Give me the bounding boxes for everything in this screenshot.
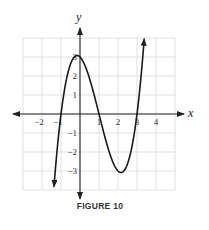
x-axis-label: x xyxy=(187,106,194,120)
x-tick-label: −1 xyxy=(53,117,63,127)
y-tick-label: 1 xyxy=(73,90,78,100)
y-tick-label: 2 xyxy=(73,71,78,81)
cubic-function-graph: −2−11234321−1−2−3 x y xyxy=(0,0,209,200)
y-tick-label: −3 xyxy=(67,166,77,176)
y-tick-label: −2 xyxy=(67,147,77,157)
x-tick-label: 4 xyxy=(154,117,159,127)
figure-10: −2−11234321−1−2−3 x y FIGURE 10 xyxy=(0,0,209,230)
y-tick-label: −1 xyxy=(67,128,77,138)
y-axis-label: y xyxy=(75,10,82,24)
figure-caption: FIGURE 10 xyxy=(0,201,200,211)
x-tick-label: 2 xyxy=(116,117,121,127)
x-tick-label: −2 xyxy=(34,117,44,127)
